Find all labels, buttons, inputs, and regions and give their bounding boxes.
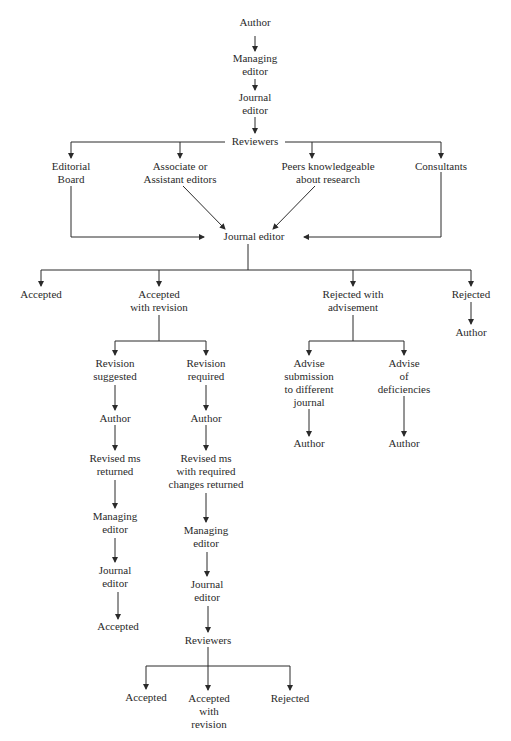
node-revision-required: Revision required	[186, 357, 225, 383]
node-accepted: Accepted	[20, 288, 62, 301]
node-journal-editor-top: Journal editor	[239, 91, 271, 117]
node-revised-returned: Revised ms returned	[89, 452, 140, 478]
node-author-rejected: Author	[455, 326, 486, 339]
node-managing-editor-top: Managing editor	[233, 52, 278, 78]
node-consultants: Consultants	[415, 160, 467, 173]
node-managing-editor-required: Managing editor	[184, 524, 229, 550]
node-author-suggested: Author	[99, 412, 130, 425]
node-accepted-suggested: Accepted	[97, 620, 139, 633]
node-advise-submission: Advise submission to different journal	[284, 357, 334, 409]
node-revised-required-returned: Revised ms with required changes returne…	[169, 452, 244, 491]
node-managing-editor-suggested: Managing editor	[93, 510, 138, 536]
node-author-required: Author	[190, 412, 221, 425]
node-rejected-bottom: Rejected	[271, 692, 309, 705]
node-accepted-with-revision-bottom: Accepted with revision	[188, 692, 230, 731]
node-rejected: Rejected	[452, 288, 490, 301]
node-reviewers-bottom: Reviewers	[185, 634, 231, 647]
node-journal-editor-mid: Journal editor	[224, 230, 285, 243]
node-editorial-board: Editorial Board	[52, 160, 91, 186]
node-revision-suggested: Revision suggested	[93, 357, 136, 383]
node-associate-editors: Associate or Assistant editors	[143, 160, 216, 186]
node-author-submission: Author	[293, 437, 324, 450]
node-rejected-with-advisement: Rejected with advisement	[323, 288, 384, 314]
node-peers: Peers knowledgeable about research	[281, 160, 374, 186]
node-advise-deficiencies: Advise of deficiencies	[378, 357, 431, 396]
node-accepted-with-revision: Accepted with revision	[130, 288, 188, 314]
node-author-deficiencies: Author	[388, 437, 419, 450]
node-author-top: Author	[239, 16, 270, 29]
node-journal-editor-required: Journal editor	[191, 578, 223, 604]
node-journal-editor-suggested: Journal editor	[99, 564, 131, 590]
editorial-review-flowchart: Author Managing editor Journal editor Re…	[0, 0, 511, 741]
node-accepted-bottom: Accepted	[125, 691, 167, 704]
node-reviewers-top: Reviewers	[232, 135, 278, 148]
